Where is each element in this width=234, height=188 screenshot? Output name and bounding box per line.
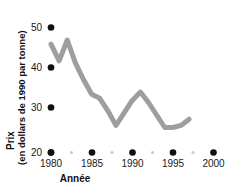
x-minor-marker-4 <box>192 151 195 154</box>
x-axis-tick-labels: 1980 1985 1990 1995 2000 <box>40 158 225 169</box>
chart-svg: 50 40 30 20 1980 1985 1990 <box>0 0 234 188</box>
y-tick-label-20: 20 <box>31 147 43 158</box>
y-axis-title: Prix <box>5 131 16 150</box>
x-minor-marker-3 <box>151 151 154 154</box>
x-tick-label-1995: 1995 <box>162 158 185 169</box>
x-tick-label-2000: 2000 <box>202 158 225 169</box>
x-axis-tick-markers <box>48 149 217 156</box>
y-tick-marker-50 <box>48 24 55 31</box>
x-minor-marker-1 <box>70 151 73 154</box>
price-line-chart: 50 40 30 20 1980 1985 1990 <box>0 0 234 188</box>
y-axis-subtitle: (en dollars de 1990 par tonne) <box>16 30 27 165</box>
y-tick-label-50: 50 <box>31 22 43 33</box>
x-tick-marker-1995 <box>170 149 177 156</box>
x-tick-label-1985: 1985 <box>81 158 104 169</box>
x-tick-marker-1985 <box>89 149 96 156</box>
price-series-line <box>51 40 189 128</box>
x-axis-title: Année <box>60 173 91 184</box>
x-tick-label-1990: 1990 <box>121 158 144 169</box>
x-tick-label-1980: 1980 <box>40 158 63 169</box>
x-minor-marker-2 <box>111 151 114 154</box>
y-tick-marker-30 <box>48 104 55 111</box>
y-tick-label-30: 30 <box>31 102 43 113</box>
y-tick-label-40: 40 <box>31 62 43 73</box>
x-tick-marker-1990 <box>129 149 136 156</box>
y-axis-tick-labels: 50 40 30 20 <box>31 22 43 158</box>
x-tick-marker-1980 <box>48 149 55 156</box>
y-tick-marker-40 <box>48 64 55 71</box>
x-tick-marker-2000 <box>210 149 217 156</box>
